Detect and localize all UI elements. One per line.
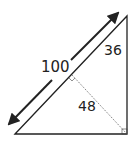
right-angle-mark-foot <box>69 78 75 81</box>
label-altitude-48: 48 <box>78 99 96 113</box>
label-segment-36: 36 <box>104 43 122 57</box>
label-hypotenuse: 100 <box>41 60 70 75</box>
